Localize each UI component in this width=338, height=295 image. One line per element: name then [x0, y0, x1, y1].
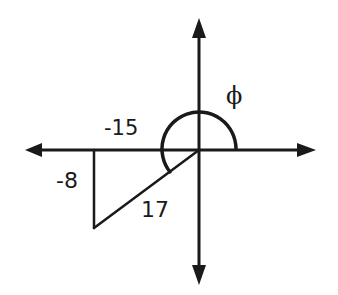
arrow-up-icon: [192, 18, 206, 38]
arrow-left-icon: [25, 143, 42, 157]
arrow-down-icon: [192, 265, 206, 285]
arrow-right-icon: [297, 143, 316, 157]
angle-label: ϕ: [226, 84, 242, 108]
hypotenuse-label: 17: [141, 199, 169, 221]
y-leg-label: -8: [56, 170, 78, 192]
coordinate-diagram: [0, 0, 338, 295]
x-leg-label: -15: [104, 118, 138, 139]
